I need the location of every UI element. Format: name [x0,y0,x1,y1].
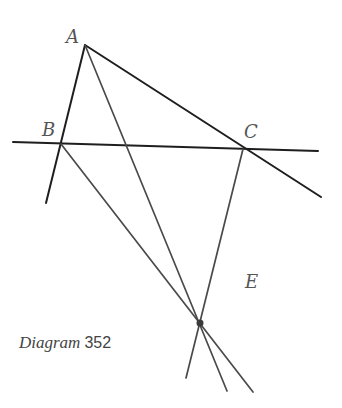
diagram-caption: Diagram352 [19,333,111,353]
label-c: C [244,121,258,142]
label-a: A [64,26,79,47]
line-ac [85,45,321,197]
label-e: E [244,271,258,292]
intersection-point-dot [197,320,204,327]
line-b-e [61,144,253,392]
caption-word: Diagram [19,333,80,352]
label-b: B [41,119,55,140]
caption-number: 352 [84,334,111,351]
